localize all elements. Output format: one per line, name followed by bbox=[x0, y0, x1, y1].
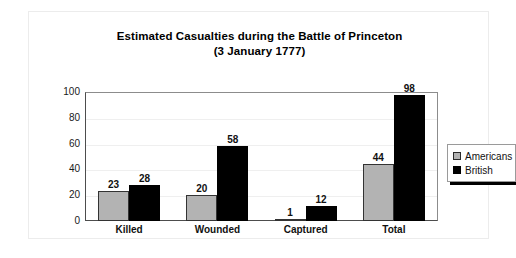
y-tick-label: 20 bbox=[54, 189, 80, 200]
y-tick-label: 40 bbox=[54, 163, 80, 174]
chart-legend[interactable]: Americans British bbox=[447, 144, 516, 182]
x-tick-label-total: Total bbox=[350, 224, 438, 235]
chart-title-line1: Estimated Casualties during the Battle o… bbox=[117, 30, 403, 42]
chart-title-line2: (3 January 1777) bbox=[29, 44, 490, 59]
x-tick-label-wounded: Wounded bbox=[173, 224, 261, 235]
legend-item-americans[interactable]: Americans bbox=[453, 149, 511, 163]
gridline bbox=[86, 196, 437, 197]
chart-title: Estimated Casualties during the Battle o… bbox=[29, 29, 490, 59]
legend-swatch-icon bbox=[453, 152, 461, 160]
legend-label: Americans bbox=[465, 151, 512, 162]
y-tick-label: 80 bbox=[54, 112, 80, 123]
y-tick-label: 100 bbox=[54, 86, 80, 97]
x-tick-label-killed: Killed bbox=[85, 224, 173, 235]
gridline bbox=[86, 145, 437, 146]
y-tick-label: 0 bbox=[54, 215, 80, 226]
legend-label: British bbox=[465, 165, 493, 176]
legend-item-british[interactable]: British bbox=[453, 163, 511, 177]
x-tick-label-captured: Captured bbox=[262, 224, 350, 235]
plot-area bbox=[85, 92, 438, 221]
y-axis: 100 80 60 40 20 0 bbox=[50, 92, 80, 221]
gridline bbox=[86, 170, 437, 171]
legend-swatch-icon bbox=[453, 166, 461, 174]
y-tick-label: 60 bbox=[54, 138, 80, 149]
gridline bbox=[86, 119, 437, 120]
chart-container: Estimated Casualties during the Battle o… bbox=[28, 11, 489, 239]
x-axis: Killed Wounded Captured Total bbox=[85, 224, 438, 235]
